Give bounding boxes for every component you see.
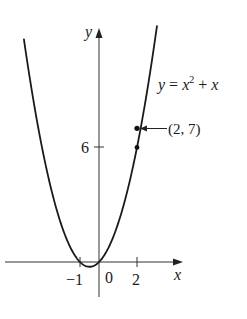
x-tick-label-0: 0 (105, 269, 113, 286)
equation-label: y = x2 + x (156, 74, 218, 94)
x-axis-arrow-icon (173, 259, 183, 266)
eq-plus: + (194, 76, 211, 93)
x-axis-label: x (173, 266, 181, 283)
eq-x2: x (210, 76, 218, 93)
point-2-6 (135, 145, 140, 150)
graph-canvas: y x y = x2 + x (2, 7) 6 −1 0 2 (0, 0, 247, 319)
y-axis-label: y (83, 23, 93, 41)
x-tick-label-2: 2 (132, 271, 140, 288)
point-2-7 (134, 126, 139, 131)
y-tick-label-6: 6 (81, 139, 89, 156)
x-tick-label-neg1: −1 (66, 271, 83, 288)
eq-x: x (181, 76, 189, 93)
y-axis-arrow-icon (96, 28, 103, 38)
point-label: (2, 7) (168, 121, 201, 138)
eq-equals: = (165, 76, 182, 93)
